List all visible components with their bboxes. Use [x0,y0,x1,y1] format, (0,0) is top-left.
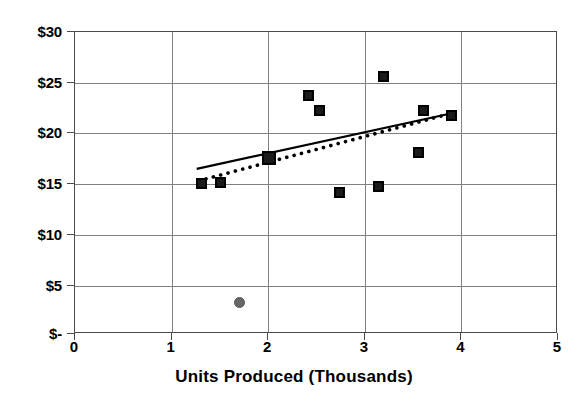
gridline-y-5 [75,286,556,287]
data-point-square [373,181,384,192]
y-tick-mark-15 [67,183,74,184]
y-tick-label-25: $25 [0,74,62,91]
y-tick-label-5: $5 [0,277,62,294]
trendlines-overlay [75,32,558,334]
data-point-square [314,105,325,116]
data-point-square [378,71,389,82]
data-point-square [303,90,314,101]
y-tick-label-10: $10 [0,226,62,243]
x-tick-label-4: 4 [440,338,480,355]
gridline-y-25 [75,83,556,84]
gridline-y-20 [75,133,556,134]
x-axis-title: Units Produced (Thousands) [0,367,588,387]
y-tick-mark-5 [67,285,74,286]
data-point-square [215,177,226,188]
data-point-square [418,105,429,116]
data-point-square [262,151,276,165]
y-tick-label-30: $30 [0,23,62,40]
data-point-square [334,187,345,198]
gridline-x-1 [172,32,173,332]
y-tick-mark-10 [67,234,74,235]
x-tick-label-2: 2 [247,338,287,355]
x-tick-label-3: 3 [344,338,384,355]
data-point-square [196,178,207,189]
data-point-square [413,147,424,158]
gridline-y-15 [75,184,556,185]
data-point-circle-outlier [234,297,245,308]
x-tick-label-1: 1 [151,338,191,355]
x-tick-label-5: 5 [537,338,577,355]
y-tick-mark-25 [67,82,74,83]
gridline-y-10 [75,235,556,236]
gridline-x-3 [365,32,366,332]
y-tick-mark-30 [67,31,74,32]
data-point-square [446,110,457,121]
y-tick-label-20: $20 [0,124,62,141]
plot-area [74,31,557,333]
y-tick-label-15: $15 [0,175,62,192]
x-axis-labels: 0 1 2 3 4 5 [0,338,588,362]
y-tick-mark-20 [67,132,74,133]
x-tick-label-0: 0 [54,338,94,355]
y-tick-mark-0 [67,333,74,334]
gridline-x-2 [268,32,269,332]
gridline-x-4 [461,32,462,332]
high-low-trendline [197,114,451,169]
scatter-chart: $30 $25 $20 $15 $10 $5 $- [0,0,588,411]
